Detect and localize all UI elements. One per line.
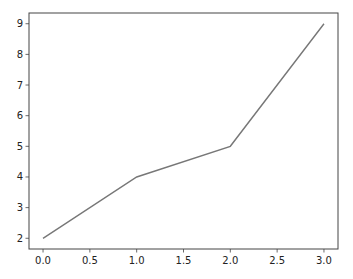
x-tick-label: 2.5 (269, 255, 285, 266)
y-tick-label: 3 (17, 202, 23, 213)
y-tick-label: 8 (17, 49, 23, 60)
y-tick-label: 4 (17, 171, 23, 182)
chart-background (0, 0, 353, 279)
x-tick-label: 1.0 (129, 255, 145, 266)
x-tick-label: 3.0 (316, 255, 332, 266)
x-tick-label: 2.0 (222, 255, 238, 266)
y-tick-label: 6 (17, 110, 23, 121)
y-tick-label: 2 (17, 233, 23, 244)
x-tick-label: 0.0 (35, 255, 51, 266)
y-tick-label: 9 (17, 18, 23, 29)
y-tick-label: 7 (17, 80, 23, 91)
x-tick-label: 1.5 (176, 255, 192, 266)
x-tick-label: 0.5 (82, 255, 98, 266)
line-chart: 23456789 0.00.51.01.52.02.53.0 (0, 0, 353, 279)
y-tick-label: 5 (17, 141, 23, 152)
